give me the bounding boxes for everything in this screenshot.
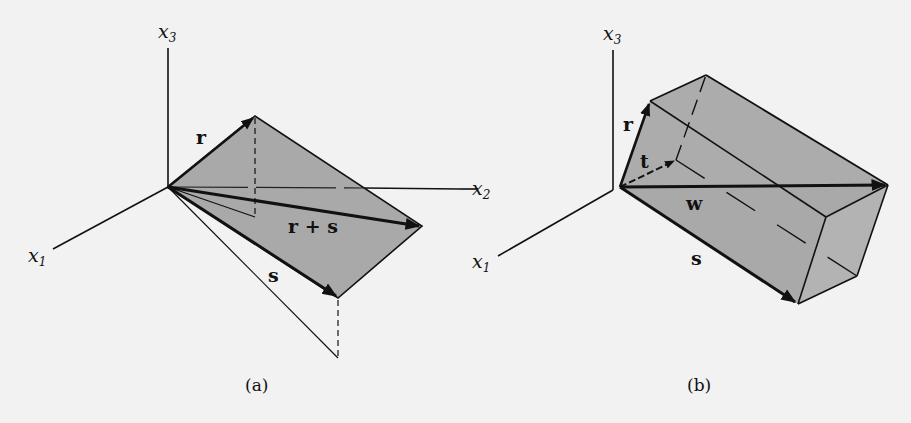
panel-b: x3 x1 r t w s (b) [460, 22, 888, 395]
axis-label-x3: x3 [603, 22, 622, 47]
vector-label-r: r [623, 113, 634, 135]
axis-x1 [498, 190, 613, 256]
vector-label-s: s [691, 247, 702, 269]
axis-label-x1: x1 [28, 244, 46, 269]
vector-label-t: t [640, 150, 649, 172]
axis-x2 [365, 188, 460, 189]
caption-a: (a) [245, 375, 268, 395]
axis-label-x1: x1 [472, 250, 490, 275]
axis-label-x3: x3 [158, 20, 177, 45]
vector-label-w: w [685, 192, 703, 214]
caption-b: (b) [687, 375, 711, 395]
panel-a: x3 x1 x2 r s r + s (a) [28, 20, 490, 395]
vector-label-r-plus-s: r + s [288, 215, 338, 237]
vector-label-s: s [268, 264, 279, 286]
vector-label-r: r [196, 126, 207, 148]
vector-w [620, 185, 885, 187]
figure: x3 x1 x2 r s r + s (a) x3 [0, 0, 911, 423]
axis-x1 [53, 187, 168, 249]
